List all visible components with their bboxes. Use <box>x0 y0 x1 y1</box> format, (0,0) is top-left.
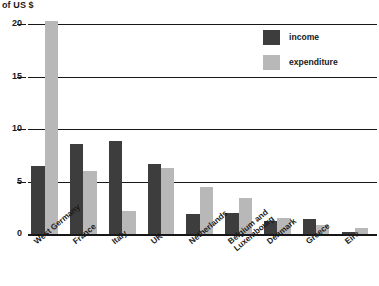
bar-income <box>109 141 122 234</box>
gridline-20 <box>28 24 377 25</box>
bar-income <box>148 164 161 234</box>
legend-swatch-income <box>263 30 280 45</box>
bar-chart: of US $ 05101520 West GermanyFranceItaly… <box>0 0 379 286</box>
gridline-10 <box>28 129 377 130</box>
legend-label-income: income <box>289 32 319 42</box>
y-axis-title: of US $ <box>2 0 34 10</box>
y-tick-label: 10 <box>0 123 22 133</box>
y-tick-label: 15 <box>0 71 22 81</box>
bar-expenditure <box>45 21 58 234</box>
plot-area <box>28 24 377 234</box>
bar-income <box>31 166 44 234</box>
y-tick-mark <box>17 129 26 130</box>
gridline-15 <box>28 77 377 78</box>
y-tick-mark <box>17 24 26 25</box>
y-tick-mark <box>17 182 26 183</box>
y-tick-label: 0 <box>0 228 22 238</box>
legend-swatch-expenditure <box>263 55 280 70</box>
bar-income <box>70 144 83 234</box>
legend-label-expenditure: expenditure <box>289 57 338 67</box>
y-tick-label: 20 <box>0 18 22 28</box>
y-tick-mark <box>17 77 26 78</box>
y-tick-label: 5 <box>0 176 22 186</box>
bar-expenditure <box>161 168 174 234</box>
